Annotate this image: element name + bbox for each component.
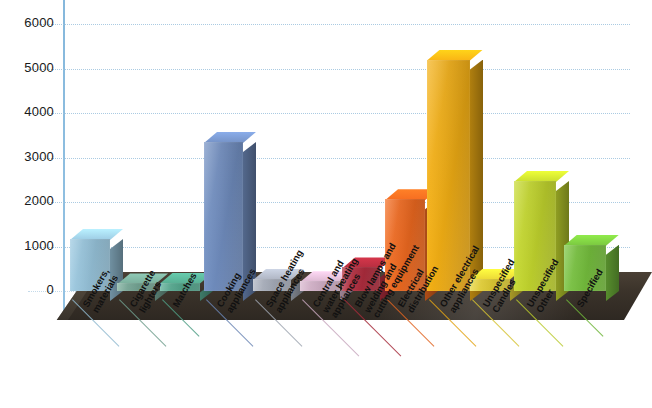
label-text: Specified (575, 267, 605, 309)
bar-chart: 0100020003000400050006000 Smokers,materi… (0, 0, 652, 408)
label-text: Cookingappliances (215, 261, 258, 314)
label-line: Matches (171, 271, 199, 309)
label-text: UnspecifiedOther (525, 257, 570, 314)
label-text: Matches (171, 271, 199, 309)
label-text: UnspecifiedCandles (481, 257, 526, 314)
category-axis-labels: Smokers,materialsCigarettelightersMatche… (0, 0, 652, 408)
label-text: Smokers,materials (81, 267, 121, 315)
label-text: Central andwater heatingappliances (311, 251, 369, 320)
label-text: Cigarettelighters (128, 268, 167, 314)
label-line: Specified (575, 267, 605, 309)
